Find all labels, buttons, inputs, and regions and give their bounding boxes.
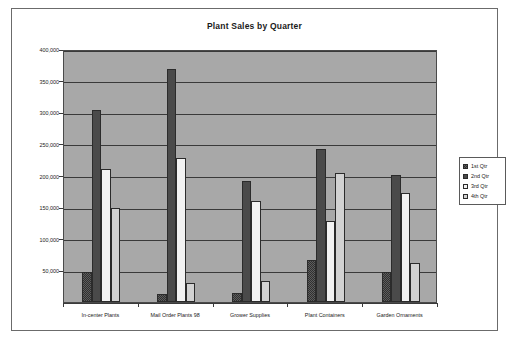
x-axis-label-5: Garden Ornaments: [377, 312, 423, 318]
legend-item-label: 2nd Qtr: [471, 173, 489, 179]
legend-swatch-icon: [463, 194, 468, 199]
bar-2nd-qtr-4[interactable]: [316, 149, 326, 302]
legend-swatch-icon: [463, 184, 468, 189]
gridline: [64, 82, 436, 83]
bar-2nd-qtr-5[interactable]: [391, 175, 401, 302]
x-axis-label-2: Mail Order Plants 98: [151, 312, 200, 318]
x-axis-label-3: Grower Supplies: [230, 312, 270, 318]
legend-item-label: 1st Qtr: [471, 163, 487, 169]
gridline: [64, 177, 436, 178]
legend-item-4th-qtr[interactable]: 4th Qtr: [463, 191, 503, 201]
gridline: [64, 145, 436, 146]
y-axis-tickmarks: [12, 50, 63, 303]
bar-3rd-qtr-2[interactable]: [176, 158, 186, 302]
chart-legend: 1st Qtr2nd Qtr3rd Qtr4th Qtr: [459, 157, 506, 205]
chart-frame: Plant Sales by Quarter 50,000100,000150,…: [11, 8, 498, 331]
legend-item-label: 3rd Qtr: [471, 183, 488, 189]
bar-3rd-qtr-4[interactable]: [326, 221, 336, 302]
bar-4th-qtr-3[interactable]: [261, 281, 271, 302]
bar-1st-qtr-1[interactable]: [82, 272, 92, 302]
bar-3rd-qtr-1[interactable]: [101, 169, 111, 302]
bar-1st-qtr-2[interactable]: [157, 294, 167, 302]
bar-1st-qtr-5[interactable]: [382, 272, 392, 302]
bar-2nd-qtr-2[interactable]: [167, 69, 177, 302]
bar-2nd-qtr-1[interactable]: [92, 110, 102, 302]
legend-item-2nd-qtr[interactable]: 2nd Qtr: [463, 171, 503, 181]
bar-1st-qtr-4[interactable]: [307, 260, 317, 302]
x-axis-tickmark: [213, 303, 214, 307]
chart-title: Plant Sales by Quarter: [12, 21, 497, 31]
x-axis-tickmark: [63, 303, 64, 307]
bar-3rd-qtr-5[interactable]: [401, 193, 411, 302]
plot-inner: [64, 51, 436, 302]
bar-4th-qtr-5[interactable]: [410, 263, 420, 302]
bar-4th-qtr-2[interactable]: [186, 283, 196, 302]
x-axis-label-1: In-center Plants: [82, 312, 120, 318]
x-axis-tickmark: [138, 303, 139, 307]
x-axis-tickmark: [437, 303, 438, 307]
legend-swatch-icon: [463, 164, 468, 169]
x-axis-line: [63, 303, 437, 304]
legend-swatch-icon: [463, 174, 468, 179]
bar-3rd-qtr-3[interactable]: [251, 201, 261, 302]
gridline: [64, 114, 436, 115]
x-axis-tickmark: [287, 303, 288, 307]
bar-1st-qtr-3[interactable]: [232, 293, 242, 302]
gridline: [64, 51, 436, 52]
bar-4th-qtr-1[interactable]: [111, 208, 121, 302]
bar-2nd-qtr-3[interactable]: [242, 181, 252, 302]
x-axis-tickmark: [362, 303, 363, 307]
x-axis-label-4: Plant Containers: [305, 312, 345, 318]
bar-4th-qtr-4[interactable]: [335, 173, 345, 302]
legend-item-label: 4th Qtr: [471, 193, 487, 199]
plot-area: [63, 50, 437, 303]
legend-item-1st-qtr[interactable]: 1st Qtr: [463, 161, 503, 171]
legend-item-3rd-qtr[interactable]: 3rd Qtr: [463, 181, 503, 191]
